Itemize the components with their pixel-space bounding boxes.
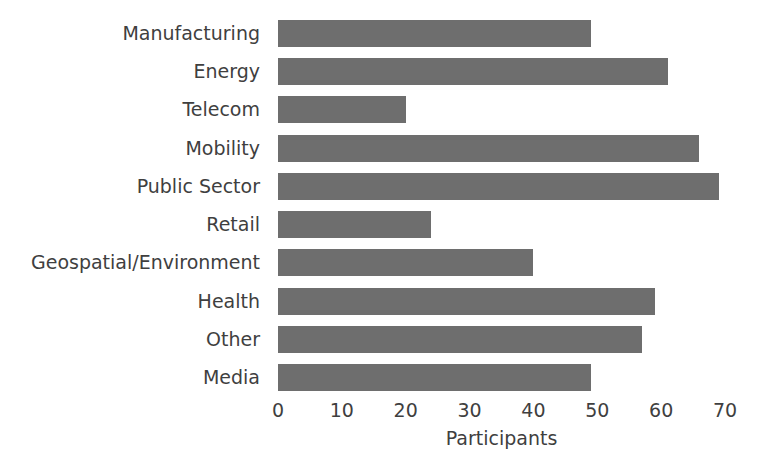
category-label-row: Energy <box>0 52 268 90</box>
category-label-row: Public Sector <box>0 167 268 205</box>
x-tick-label-0: 0 <box>272 400 284 421</box>
category-label-other: Other <box>206 330 268 349</box>
category-label-telecom: Telecom <box>182 100 268 119</box>
bar-row <box>278 205 725 243</box>
category-label-mobility: Mobility <box>185 139 268 158</box>
bar-energy <box>278 58 668 85</box>
bar-row <box>278 52 725 90</box>
category-label-manufacturing: Manufacturing <box>122 24 268 43</box>
x-tick-label-50: 50 <box>585 400 609 421</box>
bar-retail <box>278 211 431 238</box>
category-label-row: Geospatial/Environment <box>0 244 268 282</box>
category-label-geospatial-environment: Geospatial/Environment <box>31 253 268 272</box>
category-label-retail: Retail <box>206 215 268 234</box>
bar-row <box>278 91 725 129</box>
bar-chart: Manufacturing Energy Telecom Mobility Pu… <box>0 0 781 476</box>
category-label-health: Health <box>198 292 268 311</box>
category-label-row: Media <box>0 359 268 397</box>
bar-row <box>278 167 725 205</box>
x-tick-label-40: 40 <box>521 400 545 421</box>
category-label-row: Mobility <box>0 129 268 167</box>
bar-public-sector <box>278 173 719 200</box>
bar-other <box>278 326 642 353</box>
category-label-row: Telecom <box>0 91 268 129</box>
bar-telecom <box>278 96 406 123</box>
category-label-public-sector: Public Sector <box>137 177 268 196</box>
bar-health <box>278 288 655 315</box>
bar-media <box>278 364 591 391</box>
category-axis-labels: Manufacturing Energy Telecom Mobility Pu… <box>0 14 268 397</box>
bar-mobility <box>278 135 699 162</box>
x-axis-tick-labels: 010203040506070 <box>278 400 725 426</box>
category-label-energy: Energy <box>193 62 268 81</box>
bar-row <box>278 320 725 358</box>
bar-row <box>278 129 725 167</box>
x-tick-label-60: 60 <box>649 400 673 421</box>
bar-row <box>278 359 725 397</box>
x-axis-title: Participants <box>278 428 725 449</box>
bar-row <box>278 282 725 320</box>
bar-row <box>278 244 725 282</box>
plot-area <box>278 14 725 397</box>
category-label-row: Manufacturing <box>0 14 268 52</box>
bar-geospatial-environment <box>278 249 533 276</box>
x-tick-label-10: 10 <box>330 400 354 421</box>
category-label-media: Media <box>203 368 268 387</box>
category-label-row: Health <box>0 282 268 320</box>
category-label-row: Retail <box>0 205 268 243</box>
x-tick-label-70: 70 <box>713 400 737 421</box>
x-tick-label-30: 30 <box>457 400 481 421</box>
bar-row <box>278 14 725 52</box>
x-tick-label-20: 20 <box>394 400 418 421</box>
category-label-row: Other <box>0 320 268 358</box>
bar-manufacturing <box>278 20 591 47</box>
